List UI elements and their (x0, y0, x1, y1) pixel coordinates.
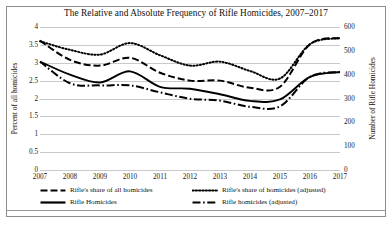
x-axis-tick: 2011 (143, 174, 177, 181)
y-axis-left-tick: 3 (4, 59, 38, 66)
y-axis-left-tick: 1 (4, 131, 38, 138)
legend-item[interactable]: Rifle's share of all homicides (40, 186, 192, 195)
legend-label: Rifle homicides (adjusted) (222, 198, 297, 207)
legend-label: Rifle's share of homicides (adjusted) (222, 186, 326, 195)
x-axis-tick: 2008 (53, 174, 87, 181)
chart-title: The Relative and Absolute Frequency of R… (0, 8, 392, 18)
x-axis-tick: 2017 (323, 174, 357, 181)
x-axis-tick: 2010 (113, 174, 147, 181)
y-axis-right-tick: 0 (344, 167, 378, 174)
legend-swatch-dashdot (192, 198, 218, 207)
y-axis-left-tick: 3.5 (4, 41, 38, 48)
x-axis-tick: 2013 (203, 174, 237, 181)
y-axis-right-tick: 400 (344, 71, 378, 78)
legend-item[interactable]: Rifle Homicides (40, 198, 192, 207)
series-line (40, 38, 340, 80)
legend-item[interactable]: Rifle homicides (adjusted) (192, 198, 350, 207)
plot-area: 43.532.521.510.50 6005004003002001000 20… (40, 27, 340, 170)
legend-swatch-dotted (192, 186, 218, 195)
y-axis-right-tick: 600 (344, 24, 378, 31)
y-axis-right-tick: 500 (344, 47, 378, 54)
legend-swatch-dashed (40, 186, 66, 195)
series-line (40, 38, 340, 90)
y-axis-left-tick: 2.5 (4, 77, 38, 84)
y-axis-left-tick: 2 (4, 95, 38, 102)
y-axis-right-tick: 100 (344, 143, 378, 150)
y-axis-left-tick: 4 (4, 24, 38, 31)
legend-label: Rifle's share of all homicides (70, 186, 152, 195)
y-axis-right-tick: 200 (344, 119, 378, 126)
y-axis-left-tick: 0.5 (4, 149, 38, 156)
x-axis-tick: 2007 (23, 174, 57, 181)
y-axis-left-tick: 1.5 (4, 113, 38, 120)
y-axis-right-tick: 300 (344, 95, 378, 102)
chart-figure: The Relative and Absolute Frequency of R… (0, 0, 392, 227)
gridline (40, 170, 340, 171)
x-axis-tick: 2012 (173, 174, 207, 181)
legend-label: Rifle Homicides (70, 198, 117, 207)
x-axis-tick: 2014 (233, 174, 267, 181)
series-line (40, 62, 340, 102)
series-lines (40, 27, 340, 170)
legend-item[interactable]: Rifle's share of homicides (adjusted) (192, 186, 350, 195)
x-axis-tick: 2009 (83, 174, 117, 181)
legend-divider (7, 210, 385, 211)
legend-swatch-solid (40, 198, 66, 207)
series-line (40, 62, 340, 109)
x-axis-tick: 2015 (263, 174, 297, 181)
x-axis-tick: 2016 (293, 174, 327, 181)
chart-legend: Rifle's share of all homicidesRifle's sh… (40, 186, 350, 207)
